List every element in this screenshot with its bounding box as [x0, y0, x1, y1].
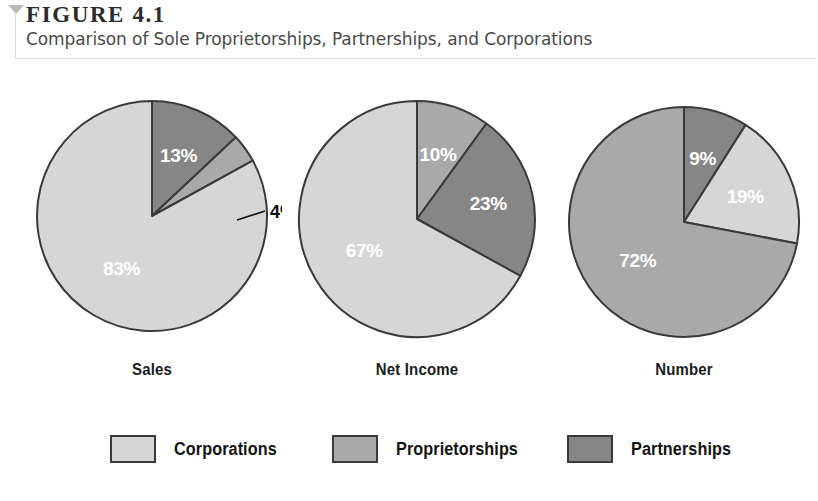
pie-chart-number: 9%19%72%Number — [554, 68, 814, 388]
slice-label-proprietorships: 72% — [619, 250, 657, 271]
triangle-down-icon — [8, 5, 24, 14]
slice-label-partnerships: 23% — [470, 193, 508, 214]
pie-caption-net-income: Net Income — [303, 360, 532, 380]
pie-chart-net-income: 10%23%67%Net Income — [287, 68, 547, 388]
pie-svg: 13%83%4% — [22, 68, 282, 358]
slice-label-partnerships: 13% — [160, 145, 198, 166]
slice-label-partnerships: 9% — [689, 148, 716, 169]
slice-label-corporations: 83% — [103, 258, 141, 279]
pie-charts-row: 13%83%4%Sales10%23%67%Net Income9%19%72%… — [0, 68, 818, 388]
header-divider — [16, 58, 816, 59]
pie-caption-number: Number — [570, 360, 799, 380]
slice-label-corporations: 67% — [346, 240, 384, 261]
legend-item-proprietorships: Proprietorships — [332, 432, 532, 466]
pie-svg: 10%23%67% — [287, 68, 547, 358]
legend-label: Corporations — [174, 439, 277, 460]
pie-caption-sales: Sales — [38, 360, 267, 380]
legend-swatch-proprietorships — [332, 435, 378, 463]
legend-item-corporations: Corporations — [110, 432, 288, 466]
chart-legend: CorporationsProprietorshipsPartnerships — [0, 432, 818, 472]
figure-caption: Comparison of Sole Proprietorships, Part… — [26, 29, 592, 49]
slice-label-proprietorships: 10% — [420, 144, 458, 165]
legend-swatch-corporations — [110, 435, 156, 463]
figure-header: FIGURE 4.1 Comparison of Sole Proprietor… — [0, 0, 818, 59]
pie-chart-sales: 13%83%4%Sales — [22, 68, 282, 388]
slice-label-proprietorships-callout: 4% — [270, 202, 282, 222]
legend-label: Proprietorships — [396, 439, 518, 460]
legend-item-partnerships: Partnerships — [567, 432, 742, 466]
pie-svg: 9%19%72% — [554, 68, 814, 358]
header-vertical-rule — [15, 14, 16, 58]
legend-label: Partnerships — [631, 439, 731, 460]
slice-label-corporations: 19% — [727, 186, 765, 207]
legend-swatch-partnerships — [567, 435, 613, 463]
figure-number: FIGURE 4.1 — [26, 2, 166, 28]
